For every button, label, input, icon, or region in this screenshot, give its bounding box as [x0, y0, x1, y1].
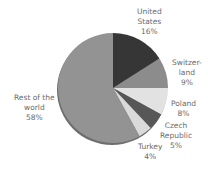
pie-slices	[58, 33, 168, 143]
label-czech-republic: Czech Republic 5%	[160, 121, 192, 151]
label-united-states: United States 16%	[137, 7, 162, 37]
label-rest-of-world: Rest of the world 58%	[14, 93, 55, 123]
label-poland: Poland 8%	[171, 99, 196, 119]
label-turkey: Turkey 4%	[138, 142, 162, 162]
label-switzerland: Switzer- land 9%	[172, 58, 202, 88]
